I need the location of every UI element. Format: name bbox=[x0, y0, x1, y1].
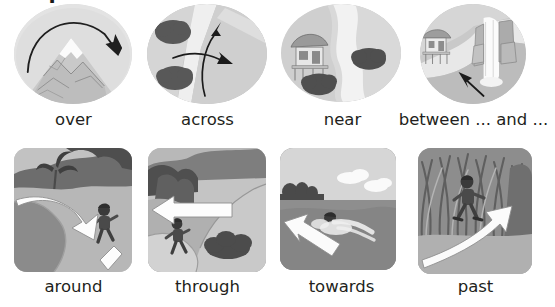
preposition-item-through[interactable]: through bbox=[140, 148, 275, 307]
preposition-item-past[interactable]: past bbox=[408, 148, 543, 307]
caption-towards: towards bbox=[274, 279, 409, 296]
preposition-item-across[interactable]: across bbox=[140, 2, 275, 142]
preposition-item-towards[interactable]: towards bbox=[274, 148, 409, 307]
swimmer-towards-shore-icon bbox=[280, 148, 396, 270]
caption-across: across bbox=[140, 112, 275, 129]
child-through-path-icon bbox=[148, 148, 266, 272]
river-across-icon bbox=[147, 4, 267, 104]
preposition-item-over[interactable]: over bbox=[6, 2, 141, 142]
child-past-grass-icon bbox=[418, 148, 532, 274]
prepositions-row-2: around bbox=[0, 148, 555, 307]
preposition-item-around[interactable]: around bbox=[6, 148, 141, 307]
mountain-over-icon bbox=[14, 4, 132, 104]
caption-over: over bbox=[6, 112, 141, 129]
prepositions-worksheet: Prepositions bbox=[0, 0, 555, 307]
hut-waterfall-between-icon bbox=[420, 4, 526, 104]
caption-past: past bbox=[408, 279, 543, 296]
prepositions-row-1: over bbox=[0, 2, 555, 142]
caption-around: around bbox=[6, 279, 141, 296]
preposition-item-between[interactable]: between ... and ... bbox=[406, 2, 541, 142]
hut-near-river-icon bbox=[281, 4, 401, 102]
child-around-lake-icon bbox=[14, 148, 132, 272]
caption-through: through bbox=[140, 279, 275, 296]
caption-between: between ... and ... bbox=[384, 112, 555, 129]
